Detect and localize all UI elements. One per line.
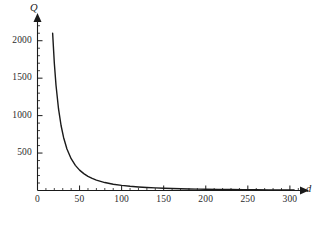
y-tick-label: 2000: [0, 35, 32, 45]
x-tick-label: 0: [24, 194, 52, 204]
data-series-group: [53, 33, 294, 190]
x-tick-label: 50: [66, 194, 94, 204]
chart-container: 050100150200250300 500100015002000 Q d: [0, 0, 318, 232]
x-tick-label: 250: [234, 194, 262, 204]
x-tick-label: 300: [276, 194, 304, 204]
y-tick-label: 1500: [0, 72, 32, 82]
axes-group: [34, 13, 310, 195]
x-tick-label: 200: [192, 194, 220, 204]
x-axis-label: d: [306, 183, 311, 194]
y-tick-label: 500: [0, 147, 32, 157]
x-tick-label: 100: [108, 194, 136, 204]
y-axis-label: Q: [30, 2, 38, 13]
x-tick-label: 150: [150, 194, 178, 204]
y-axis-arrow-icon: [34, 13, 42, 22]
data-series-line: [53, 33, 294, 190]
y-tick-label: 1000: [0, 110, 32, 120]
y-axis-major-ticks: [38, 41, 43, 153]
